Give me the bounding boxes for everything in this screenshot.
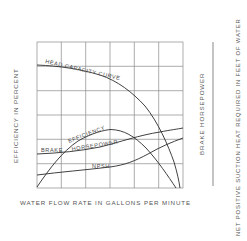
y-axis-left-label: EFFICIENCY IN PERCENT <box>12 68 19 163</box>
x-axis-label: WATER FLOW RATE IN GALLONS PER MINUTE <box>20 199 191 206</box>
npsh-label: NPSH <box>92 163 110 169</box>
brake-label: BRAKE <box>41 147 63 153</box>
pump-performance-chart: HEAD CAPACITY CURVE EFFICIENCY BRAKE HOR… <box>0 0 247 241</box>
y-axis-right-brake-label: BRAKE HORSEPOWER <box>198 73 205 155</box>
efficiency-curve <box>37 130 176 189</box>
y-axis-right-npsh-label: NET POSITIVE SUCTION HEAT REQUIRED IN FE… <box>235 18 241 236</box>
